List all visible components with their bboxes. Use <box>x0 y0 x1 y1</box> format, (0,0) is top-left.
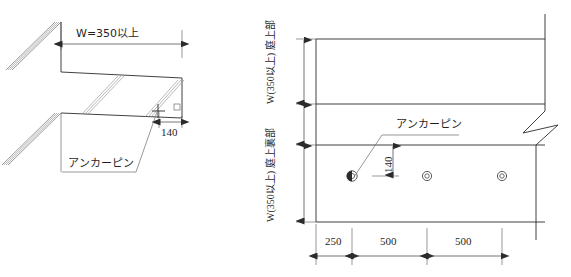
spacing-label-2: 500 <box>380 236 397 247</box>
plan-anchor-leader <box>354 135 459 177</box>
left-edge-dimension-label: 140 <box>161 127 178 138</box>
lower-wall-hatching <box>2 113 61 165</box>
anchor-pin-marker <box>152 104 165 118</box>
left-anchor-pin-label: アンカーピン <box>68 158 134 169</box>
anchor-pin-3 <box>497 171 506 180</box>
canopy-underside <box>61 113 182 118</box>
right-angle-marker <box>174 104 180 110</box>
lower-zone-dimension-label: W(350以上) <box>266 171 276 222</box>
anchor-pin-2 <box>422 171 431 180</box>
lower-zone-label: 庭上裏部 <box>266 128 276 168</box>
right-plan-view <box>296 14 558 265</box>
canopy-top-surface <box>61 72 182 78</box>
left-width-dimension-label: W=350以上 <box>76 28 139 39</box>
spacing-label-3: 500 <box>455 236 472 247</box>
anchor-pin-row <box>347 171 507 181</box>
spacing-label-1: 250 <box>325 236 342 247</box>
canopy-rib-left <box>82 76 124 114</box>
left-section-view <box>2 22 184 172</box>
anchor-pin-1 <box>347 171 357 181</box>
upper-zone-label-group: 庭上部 W(350以上) <box>266 20 276 104</box>
plan-edge-offset-label: 140 <box>383 157 394 174</box>
technical-drawing-svg <box>0 0 571 277</box>
upper-wall-hatching <box>6 22 61 70</box>
drawing-canvas: W=350以上 140 アンカーピン 庭上部 W(350以上) 庭上裏部 W(3… <box>0 0 571 277</box>
zone-dimension-lines <box>296 39 316 222</box>
upper-zone-label: 庭上部 <box>266 20 276 50</box>
plan-anchor-pin-label: アンカーピン <box>396 119 462 130</box>
upper-zone-dimension-label: W(350以上) <box>266 53 276 104</box>
break-line <box>523 14 558 240</box>
spacing-dimension-lines <box>316 224 502 265</box>
lower-zone-label-group: 庭上裏部 W(350以上) <box>266 128 276 222</box>
